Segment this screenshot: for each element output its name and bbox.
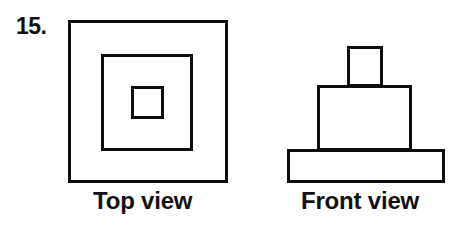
problem-number-label: 15.	[16, 15, 46, 38]
front-view-top-rectangle	[347, 46, 383, 87]
figure-canvas: 15. Top view Front view	[0, 0, 459, 231]
front-view-middle-rectangle	[317, 85, 412, 151]
top-view-caption: Top view	[93, 189, 192, 213]
front-view-caption: Front view	[301, 189, 419, 213]
top-view-inner-square	[131, 86, 164, 119]
front-view-base-rectangle	[287, 149, 445, 183]
